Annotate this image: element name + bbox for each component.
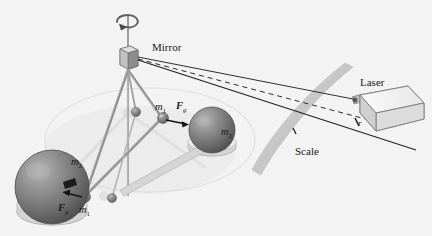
large-mass-right-label: m2 <box>221 127 232 138</box>
mirror-box <box>120 46 138 69</box>
force-top-label: Fg <box>176 101 187 112</box>
small-mass-bottom-symbol: m <box>79 204 87 215</box>
small-mass-top-label: m1 <box>155 102 166 113</box>
large-mass-left-subscript: 2 <box>79 162 83 170</box>
large-mass-left-symbol: m <box>71 156 79 167</box>
scale-arc <box>252 63 353 175</box>
force-top-symbol: F <box>176 100 183 111</box>
force-bottom-subscript: g <box>65 208 69 216</box>
diagram-canvas <box>0 0 432 236</box>
force-bottom-label: Fg <box>58 203 69 214</box>
cavendish-balance-figure: Mirror Laser Scale r m1 Fg m2 m2 m1 Fg <box>0 0 432 236</box>
mirror-label: Mirror <box>152 42 181 53</box>
torsion-fiber <box>127 14 128 196</box>
beam-incident <box>138 57 358 100</box>
small-mass-bottom-subscript: 1 <box>87 210 91 218</box>
force-bottom-symbol: F <box>58 202 65 213</box>
force-top-subscript: g <box>183 106 187 114</box>
large-mass-left-label: m2 <box>71 157 82 168</box>
scale-spot-tick <box>293 128 296 134</box>
large-mass-right-subscript: 2 <box>229 132 233 140</box>
large-mass-right-symbol: m <box>221 126 229 137</box>
laser-label: Laser <box>360 77 384 88</box>
laser-box <box>352 86 424 131</box>
small-mass-top-symbol: m <box>155 101 163 112</box>
small-mass-bottom-label: m1 <box>79 205 90 216</box>
distance-r-label: r <box>358 119 362 128</box>
small-mass-top-subscript: 1 <box>163 107 167 115</box>
scale-label: Scale <box>295 146 319 157</box>
